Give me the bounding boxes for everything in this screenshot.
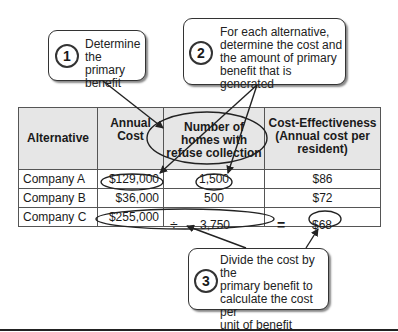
bottom-divider: [0, 329, 398, 331]
cell-homes: 1,500: [164, 170, 265, 189]
callout-step-2: 2 For each alternative, determine the co…: [183, 18, 346, 85]
table-header-row: Alternative Annual Cost Number of homes …: [19, 108, 381, 170]
header-number-of-homes: Number of homes with refuse collection: [164, 108, 265, 170]
callout-step-3: 3 Divide the cost by the primary benefit…: [188, 248, 329, 310]
cell-alternative: Company C: [19, 208, 98, 227]
divide-operator: ÷: [170, 217, 178, 234]
step-number-badge: 1: [55, 44, 79, 68]
cell-homes: 500: [164, 189, 265, 208]
callout-step-1: 1 Determine the primary benefit: [48, 30, 146, 81]
header-cost-effectiveness: Cost-Effectiveness (Annual cost per resi…: [265, 108, 381, 170]
equals-operator: =: [277, 217, 285, 234]
cell-cost-effectiveness: $72: [265, 189, 381, 208]
cell-cost-effectiveness: = $68: [265, 208, 381, 227]
cell-annual-cost: $129,000: [98, 170, 164, 189]
step-number-badge: 2: [189, 41, 213, 65]
callout-text: For each alternative, determine the cost…: [220, 26, 345, 91]
table-row: Company B $36,000 500 $72: [19, 189, 381, 208]
callout-text: Determine the primary benefit: [85, 38, 145, 90]
table-row: Company A $129,000 1,500 $86: [19, 170, 381, 189]
step-number-badge: 3: [194, 269, 218, 293]
callout-text: Divide the cost by the primary benefit t…: [220, 254, 328, 332]
cell-alternative: Company A: [19, 170, 98, 189]
cost-effectiveness-table: Alternative Annual Cost Number of homes …: [18, 107, 381, 227]
cell-homes: ÷ 3,750: [164, 208, 265, 227]
header-annual-cost: Annual Cost: [98, 108, 164, 170]
cell-cost-effectiveness: $86: [265, 170, 381, 189]
cell-alternative: Company B: [19, 189, 98, 208]
homes-value: 3,750: [200, 217, 230, 234]
cell-annual-cost: $36,000: [98, 189, 164, 208]
cost-effectiveness-value: $68: [312, 217, 332, 234]
cell-annual-cost: $255,000: [98, 208, 164, 227]
header-alternative: Alternative: [19, 108, 98, 170]
table-row: Company C $255,000 ÷ 3,750 = $68: [19, 208, 381, 227]
